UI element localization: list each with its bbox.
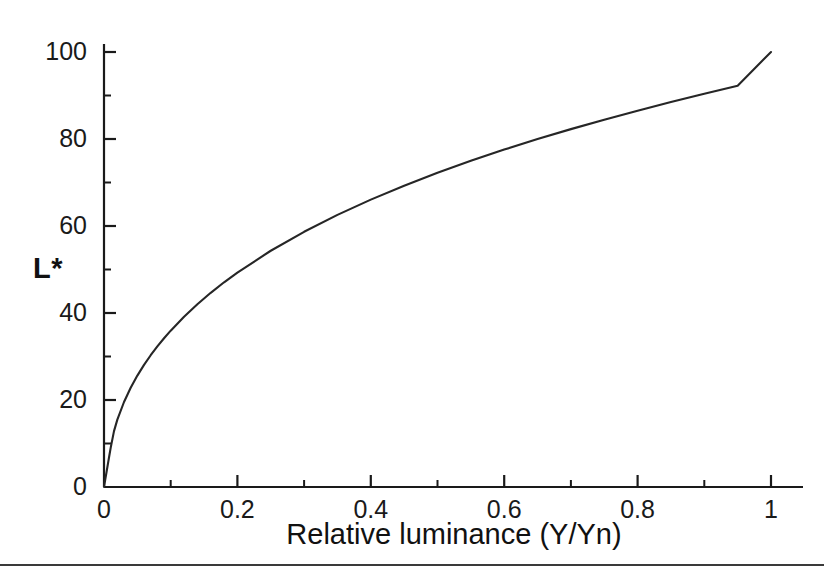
axis-ticks-group	[104, 52, 771, 487]
axes-group	[104, 44, 803, 487]
lstar-curve	[104, 52, 771, 487]
figure-container: 020406080100 00.20.40.60.81 L* Relative …	[0, 0, 824, 588]
bottom-horizontal-rule	[0, 564, 824, 566]
x-axis-title: Relative luminance (Y/Yn)	[104, 518, 804, 551]
y-axis-title: L*	[33, 252, 63, 285]
y-tick-label: 20	[9, 387, 87, 412]
y-tick-label: 40	[9, 300, 87, 325]
y-tick-label: 80	[9, 126, 87, 151]
data-curve-group	[104, 52, 771, 487]
y-tick-label: 60	[9, 213, 87, 238]
y-tick-label: 100	[9, 39, 87, 64]
y-tick-label: 0	[9, 474, 87, 499]
